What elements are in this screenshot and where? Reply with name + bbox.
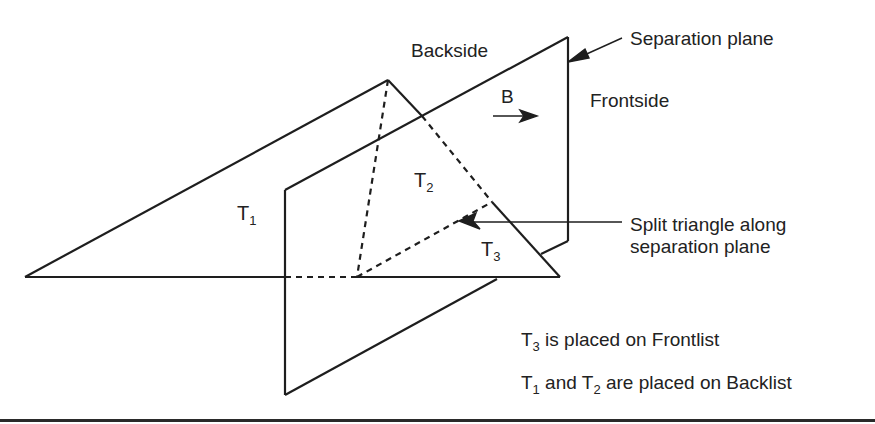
triangle-apex-right-edge-upper [388,80,422,116]
triangle-left-edge [25,80,388,277]
plane-bottom-edge-upper [541,241,568,254]
backside-label: Backside [411,41,488,60]
split-label-line2: separation plane [630,237,771,256]
t2-label: T2 [414,170,433,194]
frontlist-note: T3 is placed on Frontlist [521,330,719,353]
dashed-split-line [357,202,492,277]
backlist-note: T1 and T2 are placed on Backlist [521,373,792,396]
separation-plane-arrowhead-icon [568,49,589,62]
triangle-right-edge-lower [492,202,560,277]
b-vector-label: B [501,87,514,106]
t1-label: T1 [237,203,256,227]
bottom-border-rule [0,419,875,422]
dashed-apex-to-base [357,80,388,277]
separation-plane-label: Separation plane [630,29,774,48]
plane-bottom-edge-lower [285,279,497,395]
split-label-line1: Split triangle along [630,215,786,234]
bsp-split-diagram [0,0,875,424]
t3-label: T3 [481,239,500,263]
frontside-label: Frontside [590,91,669,110]
split-pointer-arrowhead-icon [459,213,480,229]
